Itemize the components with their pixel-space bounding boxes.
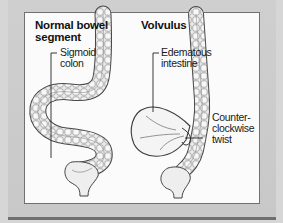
- label-line-2: colon: [60, 58, 96, 69]
- edematous-intestine-label: Edematous intestine: [161, 47, 211, 69]
- sigmoid-colon-label: Sigmoid colon: [60, 47, 96, 69]
- title-line-1: Volvulus: [141, 19, 186, 31]
- volvulus-title: Volvulus: [141, 19, 186, 31]
- title-line-2: segment: [35, 31, 108, 43]
- volvulus-drawing: [131, 14, 202, 198]
- label-line-3: twist: [212, 134, 254, 145]
- normal-bowel-title: Normal bowel segment: [35, 19, 108, 43]
- label-line-2: intestine: [161, 58, 211, 69]
- title-line-1: Normal bowel: [35, 19, 108, 31]
- counterclockwise-twist-label: Counter- clockwise twist: [212, 112, 254, 145]
